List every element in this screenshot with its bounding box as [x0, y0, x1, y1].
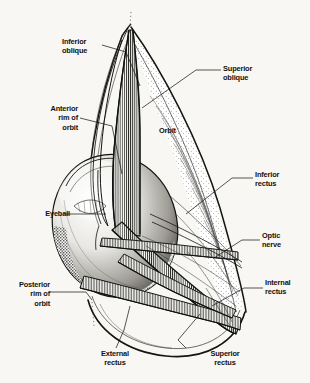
- label-posterior-rim: Posterior rim of orbit: [0, 280, 50, 308]
- orbit-anatomy-figure: [0, 0, 310, 383]
- label-anterior-rim: Anterior rim of orbit: [8, 104, 78, 132]
- label-optic-nerve: Optic nerve: [262, 231, 281, 250]
- label-inferior-rectus: Inferior rectus: [255, 170, 279, 189]
- label-eyeball: Eyeball: [0, 209, 70, 218]
- label-internal-rectus: Internal rectus: [265, 278, 291, 297]
- label-inferior-oblique: Inferior oblique: [62, 37, 87, 56]
- label-superior-oblique: Superior oblique: [223, 64, 252, 83]
- label-superior-rectus: Superior rectus: [188, 349, 262, 368]
- label-external-rectus: External rectus: [78, 349, 152, 368]
- label-orbit: Orbit: [159, 126, 176, 135]
